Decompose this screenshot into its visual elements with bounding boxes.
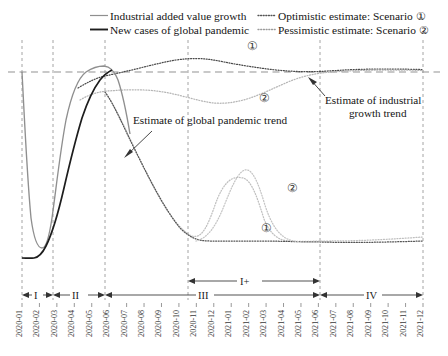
annotation-pandemic-trend-text: Estimate of global pandemic trend	[133, 114, 287, 126]
svg-text:①: ①	[247, 40, 258, 52]
x-axis-tick-label: 2021-06	[311, 310, 320, 337]
phase-i-arrow-left	[22, 292, 29, 298]
phase-label-i: I	[34, 290, 38, 301]
curve-label-pandemic-pessimistic: ②	[287, 182, 298, 194]
x-axis-tick-label: 2020-07	[120, 310, 129, 337]
curve-label-pandemic-optimistic: ①	[261, 222, 272, 234]
curve-label-industrial-optimistic: ①	[247, 40, 258, 52]
svg-text:②: ②	[259, 92, 270, 104]
phase-ii-arrow-right	[98, 292, 105, 298]
annotation-industrial-trend-line1: Estimate of industrial	[325, 94, 421, 106]
x-axis-tick-label: 2021-03	[259, 310, 268, 337]
phase-label-i-plus: I+	[240, 276, 249, 287]
legend-label-industrial-added-value-growth: Industrial added value growth	[110, 10, 247, 22]
x-axis-tick-label: 2021-12	[416, 310, 425, 337]
x-axis-tick-label: 2021-02	[242, 310, 251, 337]
x-axis-tick-label: 2021-04	[277, 310, 286, 337]
curve-label-industrial-pessimistic: ②	[259, 92, 270, 104]
phase-i-arrow-right	[46, 292, 53, 298]
phase-label-iv: IV	[366, 290, 377, 301]
gridlines-vertical	[22, 40, 423, 300]
annotation-pandemic-trend: Estimate of global pandemic trend	[124, 114, 287, 158]
legend-label-new-cases-global-pandemic: New cases of global pandemic	[110, 24, 249, 36]
x-axis-tick-label: 2020-09	[154, 310, 163, 337]
curve-new-cases-global-pandemic-observed	[22, 70, 112, 258]
x-axis-tick-label: 2020-06	[102, 310, 111, 337]
chart-legend: Industrial added value growth Optimistic…	[90, 10, 429, 36]
x-axis-tick-label: 2020-05	[85, 310, 94, 337]
x-axis-tick-label: 2020-04	[67, 310, 76, 337]
x-axis-tick-label: 2021-10	[381, 310, 390, 337]
x-axis-tick-label: 2020-01	[15, 310, 24, 337]
x-axis-tick-label: 2021-08	[346, 310, 355, 337]
x-axis-tick-label: 2020-10	[172, 310, 181, 337]
phase-iv-arrow-left	[320, 292, 327, 298]
chart-figure: Industrial added value growth Optimistic…	[0, 0, 448, 356]
x-axis-tick-label: 2020-03	[50, 310, 59, 337]
x-axis-tick-label: 2020-08	[137, 310, 146, 337]
x-axis-tick-label: 2021-11	[399, 310, 408, 337]
phase-i-plus-arrow-right	[313, 278, 320, 284]
legend-label-pessimistic-estimate: Pessimistic estimate: Scenario ②	[278, 24, 429, 36]
x-axis-tick-label: 2021-01	[224, 310, 233, 337]
phase-iii-arrow-left	[105, 292, 112, 298]
x-axis-tick-label: 2020-02	[32, 310, 41, 337]
annotation-industrial-trend: Estimate of industrial growth trend	[308, 77, 421, 119]
phase-i-plus-arrow-left	[188, 278, 195, 284]
phase-iv-arrow-right	[416, 292, 423, 298]
x-axis-tick-label: 2021-05	[294, 310, 303, 337]
curve-industrial-optimistic-scenario-1	[78, 59, 423, 89]
phase-label-iii: III	[198, 290, 209, 301]
svg-text:②: ②	[287, 182, 298, 194]
chart-svg: Industrial added value growth Optimistic…	[0, 0, 448, 356]
annotation-industrial-arrow-head	[308, 77, 317, 85]
x-axis-tick-label: 2021-07	[329, 310, 338, 337]
svg-text:①: ①	[261, 222, 272, 234]
legend-label-optimistic-estimate: Optimistic estimate: Scenario ①	[278, 10, 426, 22]
phase-iii-arrow-right	[313, 292, 320, 298]
x-axis-tick-label: 2021-09	[364, 310, 373, 337]
phase-ii-arrow-left	[53, 292, 60, 298]
phase-marker-upper-i-plus: I+	[188, 276, 320, 287]
x-axis-tick-label: 2020-12	[207, 310, 216, 337]
phase-label-ii: II	[72, 290, 79, 301]
x-axis-tick-label: 2020-11	[189, 310, 198, 337]
phase-markers-lower: I II III IV	[22, 290, 423, 301]
x-axis-tick-labels: 2020-012020-022020-032020-042020-052020-…	[15, 303, 425, 337]
annotation-industrial-trend-line2: growth trend	[349, 107, 407, 119]
curve-industrial-added-value-growth-observed	[22, 66, 130, 248]
